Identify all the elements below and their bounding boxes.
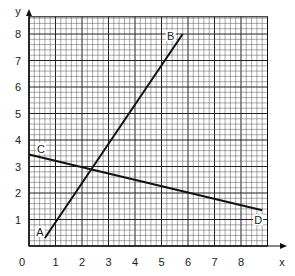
point-label-c: C: [37, 143, 45, 155]
x-tick-label: 8: [238, 256, 244, 268]
x-tick-label: 2: [79, 256, 85, 268]
y-axis-arrow-icon: [26, 9, 32, 16]
x-tick-label: 7: [211, 256, 217, 268]
y-tick-label: 8: [15, 28, 21, 40]
y-tick-label: 3: [15, 161, 21, 173]
x-tick-label: 1: [52, 256, 58, 268]
point-label-a: A: [36, 226, 44, 238]
y-tick-label: 6: [15, 81, 21, 93]
origin-label: 0: [19, 256, 25, 268]
y-axis-label: y: [15, 5, 21, 17]
y-tick-label: 5: [15, 108, 21, 120]
x-tick-label: 6: [185, 256, 191, 268]
y-tick-label: 4: [15, 134, 21, 146]
x-axis-label: x: [279, 256, 285, 268]
y-tick-label: 2: [15, 187, 21, 199]
grid-border: [29, 17, 268, 246]
point-label-b: B: [167, 30, 174, 42]
x-tick-label: 4: [132, 256, 138, 268]
point-label-d: D: [254, 214, 262, 226]
x-tick-label: 3: [105, 256, 111, 268]
axes: [26, 9, 287, 249]
graph-paper-grid: [29, 17, 268, 246]
x-axis-arrow-icon: [280, 243, 287, 249]
y-tick-label: 1: [15, 214, 21, 226]
x-tick-label: 5: [158, 256, 164, 268]
y-tick-label: 7: [15, 55, 21, 67]
coordinate-grid-chart: 12345678123456780xyABCD: [0, 0, 295, 276]
